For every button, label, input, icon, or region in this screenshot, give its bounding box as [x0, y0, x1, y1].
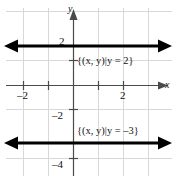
x-axis-label: x: [165, 80, 169, 90]
line-arrowhead-left: [4, 137, 18, 150]
y-tick-label-minus-2: –2: [52, 110, 63, 121]
y-tick-label-2: 2: [59, 36, 65, 47]
line-arrowhead-right: [158, 137, 172, 150]
grid-lines: [6, 8, 172, 176]
axes: [6, 16, 158, 176]
coordinate-plane-figure: y x 2 –2 2 –2 –4 {(x, y)|y = 2} {(x, y)|…: [0, 0, 176, 181]
x-tick-label-minus-2: –2: [17, 90, 28, 101]
line-arrowhead-left: [4, 40, 18, 53]
y-axis-label: y: [68, 4, 72, 14]
x-tick-label-2: 2: [120, 90, 126, 101]
set-builder-label-lower: {(x, y)|y = –3}: [77, 126, 139, 137]
set-builder-label-upper: {(x, y)|y = 2}: [77, 56, 134, 67]
data-line-y-equals-minus-3: [4, 137, 172, 150]
y-tick-label-minus-4: –4: [52, 159, 63, 170]
line-arrowhead-right: [158, 40, 172, 53]
data-line-y-equals-2: [4, 40, 172, 53]
